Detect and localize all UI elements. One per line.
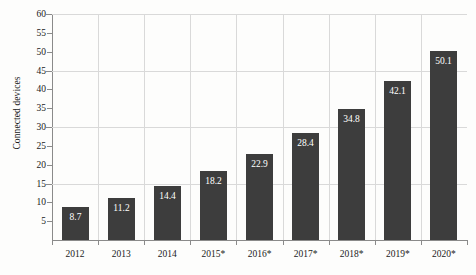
bar: 50.1 bbox=[430, 51, 457, 240]
y-axis-tick-label: 60 bbox=[20, 9, 46, 19]
y-axis-tick-label: 55 bbox=[20, 28, 46, 38]
x-axis-tick-label: 2017* bbox=[294, 249, 318, 259]
bar: 28.4 bbox=[292, 133, 319, 240]
bar-value-label: 22.9 bbox=[246, 159, 273, 169]
bar: 11.2 bbox=[108, 198, 135, 240]
x-axis-tick-label: 2013 bbox=[112, 249, 131, 259]
bar: 8.7 bbox=[62, 207, 89, 240]
bar: 18.2 bbox=[200, 171, 227, 240]
bar: 42.1 bbox=[384, 81, 411, 240]
x-axis-tick-mark bbox=[236, 240, 237, 245]
gridline-vertical bbox=[375, 14, 376, 240]
bar: 22.9 bbox=[246, 154, 273, 240]
x-axis-tick-mark bbox=[421, 240, 422, 245]
y-axis-tick-label: 35 bbox=[20, 103, 46, 113]
gridline-vertical bbox=[236, 14, 237, 240]
y-axis-tick-label: 40 bbox=[20, 84, 46, 94]
bar-value-label: 14.4 bbox=[154, 191, 181, 201]
x-axis-tick-mark bbox=[52, 240, 53, 245]
gridline-vertical bbox=[144, 14, 145, 240]
x-axis-tick-mark bbox=[144, 240, 145, 245]
x-axis-tick-label: 2016* bbox=[248, 249, 272, 259]
x-axis-tick-label: 2020* bbox=[432, 249, 456, 259]
y-axis-tick-labels: 51015202530354045505560 bbox=[14, 14, 46, 240]
gridline-vertical bbox=[421, 14, 422, 240]
bar-value-label: 18.2 bbox=[200, 176, 227, 186]
bar-value-label: 28.4 bbox=[292, 138, 319, 148]
x-axis-tick-mark bbox=[190, 240, 191, 245]
y-axis-tick-label: 10 bbox=[20, 197, 46, 207]
x-axis-tick-mark bbox=[375, 240, 376, 245]
gridline-vertical bbox=[283, 14, 284, 240]
y-axis-tick-label: 50 bbox=[20, 47, 46, 57]
x-axis-tick-label: 2012 bbox=[66, 249, 85, 259]
x-axis-line bbox=[52, 240, 468, 241]
x-axis-tick-label: 2019* bbox=[386, 249, 410, 259]
y-axis-tick-label: 20 bbox=[20, 160, 46, 170]
x-axis-tick-label: 2018* bbox=[340, 249, 364, 259]
plot-area: 8.711.214.418.222.928.434.842.150.1 bbox=[52, 14, 467, 240]
x-axis-tick-mark bbox=[329, 240, 330, 245]
y-axis-tick-label: 30 bbox=[20, 122, 46, 132]
y-axis-tick-label: 45 bbox=[20, 66, 46, 76]
gridline-vertical bbox=[190, 14, 191, 240]
bar-chart: Connected devices 5101520253035404550556… bbox=[0, 0, 476, 275]
y-axis-tick-label: 15 bbox=[20, 179, 46, 189]
bar: 14.4 bbox=[154, 186, 181, 240]
x-axis-tick-mark bbox=[283, 240, 284, 245]
gridline-vertical bbox=[329, 14, 330, 240]
x-axis-tick-label: 2015* bbox=[202, 249, 226, 259]
bar: 34.8 bbox=[338, 109, 365, 240]
y-axis-tick-label: 25 bbox=[20, 141, 46, 151]
bar-value-label: 50.1 bbox=[430, 56, 457, 66]
x-axis-tick-label: 2014 bbox=[158, 249, 177, 259]
x-axis-tick-mark bbox=[467, 240, 468, 245]
gridline-horizontal bbox=[52, 71, 467, 72]
bar-value-label: 34.8 bbox=[338, 114, 365, 124]
y-axis-tick-label: 5 bbox=[20, 216, 46, 226]
gridline-horizontal bbox=[52, 14, 467, 15]
x-axis-tick-mark bbox=[98, 240, 99, 245]
bar-value-label: 8.7 bbox=[62, 212, 89, 222]
bar-value-label: 42.1 bbox=[384, 86, 411, 96]
gridline-vertical bbox=[98, 14, 99, 240]
bar-value-label: 11.2 bbox=[108, 203, 135, 213]
